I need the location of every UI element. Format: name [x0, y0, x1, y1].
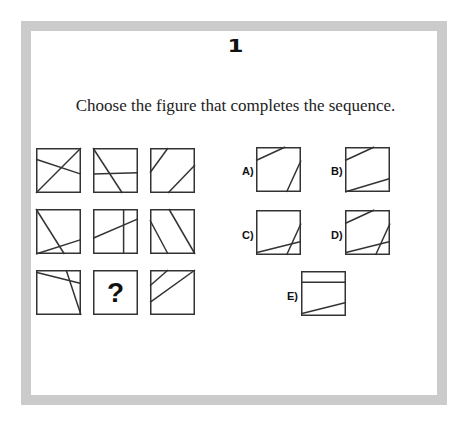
- figure-drawing: [150, 148, 195, 193]
- figure-drawing: [150, 270, 195, 315]
- figure-drawing: [36, 148, 81, 193]
- option-label-a[interactable]: A): [242, 165, 254, 177]
- sequence-cell-4: [36, 209, 81, 254]
- option-label-b[interactable]: B): [331, 165, 343, 177]
- sequence-cell-6: [150, 209, 195, 254]
- sequence-cell-9: [150, 270, 195, 315]
- option-label-c[interactable]: C): [242, 229, 254, 241]
- figure-drawing: [93, 148, 138, 193]
- figure-drawing: [345, 147, 390, 192]
- sequence-cell-1: [36, 148, 81, 193]
- option-b[interactable]: [345, 147, 390, 192]
- figure-drawing: [150, 209, 195, 254]
- figure-drawing: [256, 147, 301, 192]
- sequence-cell-7: [36, 270, 81, 315]
- question-prompt: Choose the figure that completes the seq…: [0, 96, 471, 116]
- option-label-e[interactable]: E): [287, 290, 298, 302]
- option-label-d[interactable]: D): [331, 229, 343, 241]
- option-e[interactable]: [301, 271, 346, 316]
- figure-drawing: [93, 209, 138, 254]
- figure-drawing: [36, 209, 81, 254]
- option-c[interactable]: [256, 210, 301, 255]
- figure-drawing: [256, 210, 301, 255]
- option-a[interactable]: [256, 147, 301, 192]
- figure-drawing: [36, 270, 81, 315]
- missing-figure-question-mark: ?: [93, 270, 138, 315]
- figure-drawing: [345, 210, 390, 255]
- sequence-cell-3: [150, 148, 195, 193]
- figure-drawing: [301, 271, 346, 316]
- missing-cell: ?: [93, 270, 138, 315]
- sequence-cell-2: [93, 148, 138, 193]
- sequence-cell-5: [93, 209, 138, 254]
- question-number: 1: [0, 36, 471, 56]
- option-d[interactable]: [345, 210, 390, 255]
